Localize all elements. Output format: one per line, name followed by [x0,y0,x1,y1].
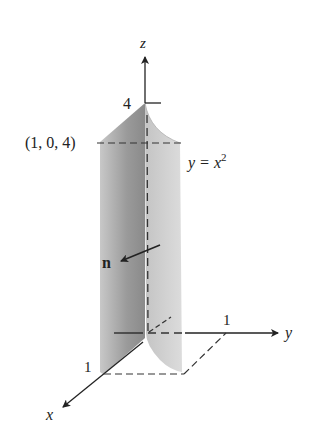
y-tick-label: 1 [223,312,231,328]
base-dashed-side [184,333,226,374]
surface-equation-exponent: 2 [221,151,227,163]
normal-vector-label: n [102,254,111,271]
x-axis-label: x [45,406,53,423]
y-axis-label: y [283,324,293,342]
z-tick-label: 4 [123,95,131,112]
surface-equation-label: y = x2 [186,151,227,172]
point-label: (1, 0, 4) [25,134,76,152]
surface-equation-lhs: y = x [186,154,221,172]
z-axis-label: z [139,35,146,51]
diagram-canvas: z 4 (1, 0, 4) y = x2 n 1 y 1 x [0,0,319,438]
x-tick-label: 1 [84,359,92,375]
